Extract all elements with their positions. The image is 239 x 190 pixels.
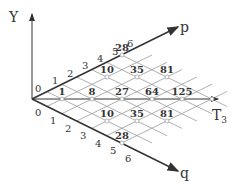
svg-text:35: 35 bbox=[130, 64, 144, 75]
svg-text:27: 27 bbox=[115, 86, 129, 97]
svg-text:28: 28 bbox=[115, 42, 129, 53]
svg-text:1: 1 bbox=[50, 115, 56, 126]
svg-text:35: 35 bbox=[130, 108, 144, 119]
svg-text:3: 3 bbox=[80, 130, 86, 141]
svg-text:5: 5 bbox=[110, 145, 116, 156]
t3-axis-label: T3 bbox=[212, 107, 227, 125]
p-axis-label: p bbox=[180, 19, 189, 35]
q-axis-label: q bbox=[180, 165, 189, 181]
svg-text:2: 2 bbox=[67, 68, 73, 79]
svg-text:10: 10 bbox=[100, 108, 114, 119]
svg-text:8: 8 bbox=[89, 86, 96, 97]
svg-text:10: 10 bbox=[100, 64, 114, 75]
weight-lattice-diagram: Y p q T3 0 1 2 3 4 5 6 0 1 2 3 4 5 6 1 8… bbox=[0, 0, 239, 190]
svg-text:3: 3 bbox=[82, 60, 88, 71]
svg-text:6: 6 bbox=[125, 153, 131, 164]
svg-text:81: 81 bbox=[160, 108, 174, 119]
svg-text:4: 4 bbox=[97, 53, 103, 64]
y-axis-label: Y bbox=[8, 9, 19, 25]
svg-text:1: 1 bbox=[52, 75, 58, 86]
svg-text:4: 4 bbox=[95, 138, 101, 149]
svg-text:2: 2 bbox=[65, 123, 71, 134]
svg-text:81: 81 bbox=[160, 64, 174, 75]
svg-text:0: 0 bbox=[35, 107, 41, 118]
svg-text:0: 0 bbox=[35, 83, 41, 94]
svg-text:28: 28 bbox=[115, 130, 129, 141]
svg-text:125: 125 bbox=[172, 86, 193, 97]
svg-text:1: 1 bbox=[59, 86, 66, 97]
svg-text:64: 64 bbox=[145, 86, 159, 97]
